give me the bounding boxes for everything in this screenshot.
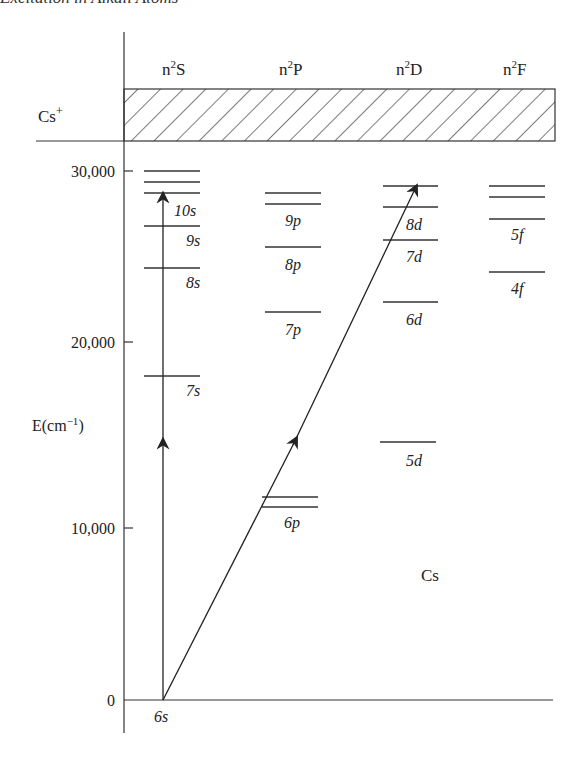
- svg-text:8p: 8p: [285, 256, 301, 274]
- y-tick-0: 0: [107, 692, 115, 709]
- svg-text:7d: 7d: [406, 248, 423, 265]
- y-tick-20000: 20,000: [71, 334, 115, 351]
- d-level-labels: 8d 7d 6d 5d: [406, 216, 423, 469]
- svg-text:4f: 4f: [511, 280, 526, 298]
- y-axis-label: E(cm−1): [32, 415, 84, 435]
- ionization-continuum-box: [124, 89, 555, 141]
- ion-label: Cs+: [38, 104, 63, 126]
- svg-text:6d: 6d: [406, 311, 423, 328]
- column-header-p: n2P: [279, 58, 302, 79]
- column-header-f: n2F: [503, 58, 526, 79]
- y-ticks: [124, 171, 133, 528]
- svg-text:7p: 7p: [285, 321, 301, 339]
- energy-level-diagram: 30,000 20,000 10,000 0 E(cm−1) Cs+ n2S n…: [0, 0, 588, 761]
- svg-text:5f: 5f: [511, 226, 526, 244]
- svg-text:5d: 5d: [406, 452, 423, 469]
- svg-text:7s: 7s: [186, 382, 200, 399]
- p-level-labels: 9p 8p 7p 6p: [284, 212, 301, 532]
- atom-label: Cs: [421, 566, 439, 585]
- f-level-labels: 5f 4f: [511, 226, 526, 298]
- s-level-labels: 10s 9s 8s 7s 6s: [154, 202, 200, 725]
- svg-text:6p: 6p: [284, 514, 300, 532]
- svg-text:9s: 9s: [186, 232, 200, 249]
- y-tick-30000: 30,000: [71, 163, 115, 180]
- column-header-s: n2S: [162, 58, 185, 79]
- svg-text:8d: 8d: [406, 216, 423, 233]
- y-tick-10000: 10,000: [71, 520, 115, 537]
- svg-text:9p: 9p: [285, 212, 301, 230]
- column-header-d: n2D: [396, 58, 422, 79]
- svg-text:8s: 8s: [186, 274, 200, 291]
- svg-text:10s: 10s: [174, 202, 196, 219]
- svg-text:6s: 6s: [154, 708, 168, 725]
- p-levels: [262, 193, 321, 507]
